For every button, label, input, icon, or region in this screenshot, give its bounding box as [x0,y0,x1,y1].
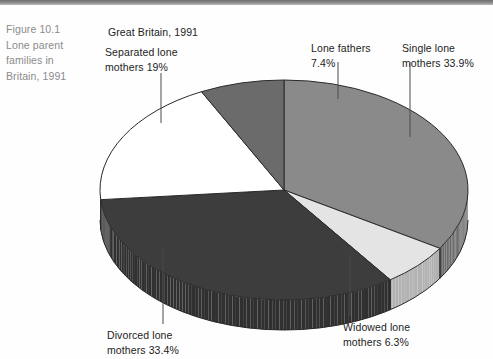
pie-slice-side [291,300,295,330]
pie-slice-side [133,253,135,285]
pie-slice-side [111,227,112,259]
pie-slice-side [120,239,122,271]
pie-slice-side [106,217,107,249]
pie-slice-side [272,300,276,330]
pie-slice-side [261,299,265,329]
pie-slice-side [173,278,176,309]
pie-slice-side [159,271,162,302]
pie-slice-side [108,221,109,253]
pie-slice-side [313,298,317,328]
pie-slice-side [446,240,448,272]
pie-slice-side [265,299,269,329]
pie-slice-side [466,204,467,236]
pie-slice-side [125,245,127,277]
pie-slice-side [280,300,284,330]
pie-slice-side [186,283,189,314]
pie-slice-side [422,261,424,293]
pie-slice-side [463,213,464,245]
pie-slice-side [341,294,344,325]
pie-slice-side [151,266,154,298]
pie-slice-side [305,299,309,329]
pie-slice-side [192,285,195,316]
pie-slice-side [334,295,338,326]
pie-slice-side [205,289,208,320]
pie-slice-side [103,208,104,240]
pie-slice-side [398,275,401,306]
pie-slice-side [109,223,110,255]
pie-slice-side [459,221,460,253]
pie-slice-side [179,281,182,312]
pie-slice-side [243,297,247,327]
pie-slice-side [129,249,131,281]
pie-slice-side [146,263,148,295]
pie-slice-side [116,236,118,268]
pie-slice-side [436,250,438,282]
pie-slice-side [352,291,355,322]
pie-slice-side [316,298,320,328]
pie-slice-side [450,236,452,268]
pie-slice-side [102,206,103,238]
pie-slice-side [454,230,455,262]
pie-slice-side [410,269,413,301]
pie-slice-side [456,228,457,260]
pie-slice-side [412,267,415,299]
pie-slice-side [401,273,404,304]
pie-slice-side [254,299,258,329]
pie-slice-side [345,293,348,324]
pie-slice-side [106,219,107,251]
pie-slice-side [404,272,407,303]
pie-slice-side [381,282,384,313]
pie-slice-side [453,232,454,264]
pie-slice-side [465,209,466,241]
pie-slice-side [118,238,120,270]
pie-slice-side [103,210,104,242]
pie-slice-side [236,296,240,327]
pie-slice-side [202,288,205,319]
pie-slice-side [461,217,462,249]
pie-slice-side [448,238,450,270]
pie-slice-side [298,299,302,329]
pie-slice-side [451,234,452,266]
pie-slice-side [365,288,368,319]
pie-slice-side [420,262,422,294]
pie-slice-side [137,256,139,288]
pie-slice-side [378,283,381,314]
pie-slice-side [215,292,218,323]
pie-slice-side [283,300,287,330]
pie-slice-side [309,299,313,329]
pie-slice-side [355,291,358,322]
pie-slice-side [338,295,342,326]
pie-slice-side [396,276,399,307]
pie-slice-side [393,277,396,308]
pie-slice-side [415,266,418,298]
pie-slice-side [123,243,125,275]
pie-slice-side [427,257,429,289]
pie-chart [0,0,493,359]
pie-slice-side [114,231,115,263]
pie-slice-side [139,258,141,290]
pie-slice-side [434,252,436,284]
pie-slice-side [462,215,463,247]
pie-slice-side [104,213,105,245]
pie-slice-side [112,229,113,261]
pie-slice-side [457,226,458,258]
pie-slice-side [425,259,427,291]
pie-slice-side [232,296,236,327]
pie-slice-side [171,277,174,308]
pie-slice-side [165,274,168,305]
pie-slice-side [218,293,221,324]
pie-slice-side [135,254,137,286]
pie-slice-side [276,300,280,330]
pie-slice-side [222,294,225,325]
pie-slice-side [302,299,306,329]
pie-slice-side [127,247,129,279]
pie-body [100,80,468,330]
pie-slice-side [131,251,133,283]
pie-slice-side [240,297,244,328]
pie-slice-side [320,297,324,327]
pie-slice-side [195,286,198,317]
pie-slice-side [327,296,331,327]
pie-slice-side [198,287,201,318]
pie-slice-side [294,300,298,330]
pie-slice-side [247,298,251,328]
